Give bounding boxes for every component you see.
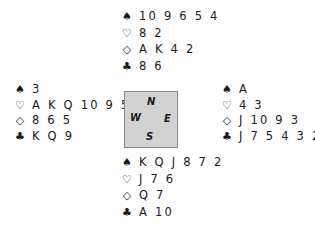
diamond-icon: ◇ bbox=[122, 188, 132, 205]
north-hand: ♠10 9 6 5 4 ♡8 2 ◇A K 4 2 ♣8 6 bbox=[122, 8, 220, 74]
spade-icon: ♠ bbox=[15, 82, 25, 98]
compass-box: N W E S bbox=[124, 91, 178, 148]
south-hearts-row: ♡J 7 6 bbox=[122, 171, 223, 188]
south-clubs-row: ♣A 10 bbox=[122, 204, 223, 221]
north-clubs: 8 6 bbox=[139, 58, 164, 75]
east-clubs: J 7 5 4 3 2 bbox=[239, 129, 315, 145]
north-spades-row: ♠10 9 6 5 4 bbox=[122, 8, 220, 25]
east-hearts: 4 3 bbox=[239, 98, 264, 114]
north-spades: 10 9 6 5 4 bbox=[139, 8, 220, 25]
east-clubs-row: ♣J 7 5 4 3 2 bbox=[222, 129, 315, 145]
club-icon: ♣ bbox=[15, 129, 25, 145]
east-spades-row: ♠A bbox=[222, 82, 315, 98]
compass-east-label: E bbox=[164, 113, 171, 124]
north-diamonds-row: ◇A K 4 2 bbox=[122, 41, 220, 58]
heart-icon: ♡ bbox=[15, 98, 25, 114]
south-hand: ♠K Q J 8 7 2 ♡J 7 6 ◇Q 7 ♣A 10 bbox=[122, 154, 223, 220]
club-icon: ♣ bbox=[122, 59, 132, 76]
west-clubs-row: ♣K Q 9 bbox=[15, 129, 130, 145]
compass-west-label: W bbox=[130, 112, 141, 123]
heart-icon: ♡ bbox=[222, 98, 232, 114]
south-spades: K Q J 8 7 2 bbox=[139, 154, 223, 171]
north-hearts: 8 2 bbox=[139, 25, 164, 42]
west-diamonds: 8 6 5 bbox=[32, 113, 72, 129]
south-diamonds-row: ◇Q 7 bbox=[122, 187, 223, 204]
compass-south-label: S bbox=[146, 131, 153, 142]
club-icon: ♣ bbox=[122, 205, 132, 222]
heart-icon: ♡ bbox=[122, 26, 132, 43]
south-diamonds: Q 7 bbox=[139, 187, 166, 204]
south-clubs: A 10 bbox=[139, 204, 174, 221]
north-clubs-row: ♣8 6 bbox=[122, 58, 220, 75]
east-hearts-row: ♡4 3 bbox=[222, 98, 315, 114]
compass-north-label: N bbox=[147, 96, 155, 107]
east-diamonds: J 10 9 3 bbox=[239, 113, 300, 129]
south-spades-row: ♠K Q J 8 7 2 bbox=[122, 154, 223, 171]
spade-icon: ♠ bbox=[122, 155, 132, 172]
west-spades: 3 bbox=[32, 82, 42, 98]
south-hearts: J 7 6 bbox=[139, 171, 175, 188]
west-hearts-row: ♡A K Q 10 9 5 bbox=[15, 98, 130, 114]
east-spades: A bbox=[239, 82, 249, 98]
west-hand: ♠3 ♡A K Q 10 9 5 ◇8 6 5 ♣K Q 9 bbox=[15, 82, 130, 144]
spade-icon: ♠ bbox=[122, 9, 132, 26]
east-diamonds-row: ◇J 10 9 3 bbox=[222, 113, 315, 129]
west-diamonds-row: ◇8 6 5 bbox=[15, 113, 130, 129]
west-hearts: A K Q 10 9 5 bbox=[32, 98, 130, 114]
north-diamonds: A K 4 2 bbox=[139, 41, 195, 58]
diamond-icon: ◇ bbox=[15, 113, 25, 129]
north-hearts-row: ♡8 2 bbox=[122, 25, 220, 42]
spade-icon: ♠ bbox=[222, 82, 232, 98]
diamond-icon: ◇ bbox=[222, 113, 232, 129]
heart-icon: ♡ bbox=[122, 172, 132, 189]
club-icon: ♣ bbox=[222, 129, 232, 145]
west-spades-row: ♠3 bbox=[15, 82, 130, 98]
west-clubs: K Q 9 bbox=[32, 129, 74, 145]
diamond-icon: ◇ bbox=[122, 42, 132, 59]
east-hand: ♠A ♡4 3 ◇J 10 9 3 ♣J 7 5 4 3 2 bbox=[222, 82, 315, 144]
